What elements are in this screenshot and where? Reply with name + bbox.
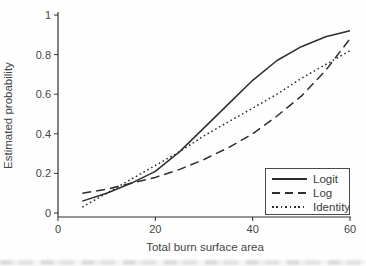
x-tick-label: 0 [55,223,61,235]
legend-label-logit: Logit [313,172,338,186]
y-tick-label: 0.4 [36,128,51,140]
y-tick-label: 0 [45,207,51,219]
y-axis-title: Estimated probability [2,31,17,201]
x-tick-label: 20 [149,223,161,235]
legend-item-log: Log [272,186,349,200]
x-tick-label: 60 [344,223,356,235]
x-tick-label: 40 [247,223,259,235]
legend-dashed-line-icon [272,192,307,194]
x-axis-title: Total burn surface area [105,241,305,253]
y-tick-label: 1 [45,9,51,21]
legend-solid-line-icon [272,178,307,180]
y-tick-label: 0.8 [36,49,51,61]
legend-item-logit: Logit [272,172,349,186]
legend-item-identity: Identity [272,200,349,214]
legend-label-identity: Identity [313,200,350,214]
y-tick-label: 0.2 [36,167,51,179]
line-chart-canvas: 00.20.40.60.810204060 [0,0,366,266]
legend: Logit Log Identity [265,168,350,215]
scan-artifact-band [0,260,366,265]
legend-dotted-line-icon [272,206,307,208]
y-tick-label: 0.6 [36,88,51,100]
burn-probability-figure: 00.20.40.60.810204060 Estimated probabil… [0,0,366,266]
legend-label-log: Log [313,186,332,200]
